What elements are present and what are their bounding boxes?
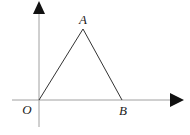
point-label-B: B — [119, 103, 127, 118]
y-axis-arrow-icon — [33, 1, 45, 14]
x-axis-arrow-icon — [170, 93, 184, 107]
point-label-O: O — [22, 102, 32, 117]
segment-OA — [39, 29, 83, 100]
segment-AB — [83, 29, 122, 100]
point-label-A: A — [78, 12, 87, 27]
triangle-diagram: A O B — [0, 0, 190, 135]
